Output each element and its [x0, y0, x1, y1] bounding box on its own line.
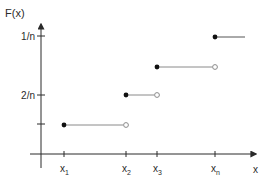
closed-dot-icon: [62, 123, 67, 128]
open-circle-icon: [213, 65, 218, 70]
step-function-diagram: F(x) 1/n 2/n x1 x2 x3 xn x: [0, 0, 271, 185]
x3-sub: 3: [158, 169, 162, 176]
x-tick-label-x2: x2: [122, 163, 131, 176]
x-tick-label-xn: xn: [211, 163, 220, 176]
y-tick-label-2-over-n: 2/n: [21, 90, 35, 101]
x2-sub: 2: [127, 169, 131, 176]
open-circle-icon: [155, 93, 160, 98]
closed-dot-icon: [213, 35, 218, 40]
step-segments: [62, 35, 245, 128]
closed-dot-icon: [155, 65, 160, 70]
x-tick-label-x3: x3: [153, 163, 162, 176]
xn-sub: n: [216, 169, 220, 176]
closed-dot-icon: [124, 93, 129, 98]
axes: [30, 24, 256, 168]
open-circle-icon: [124, 123, 129, 128]
x1-sub: 1: [65, 169, 69, 176]
y-tick-label-1-over-n: 1/n: [21, 31, 35, 42]
x-tick-label-x1: x1: [60, 163, 69, 176]
y-axis-label: F(x): [5, 7, 25, 19]
x-axis-label: x: [253, 164, 258, 175]
